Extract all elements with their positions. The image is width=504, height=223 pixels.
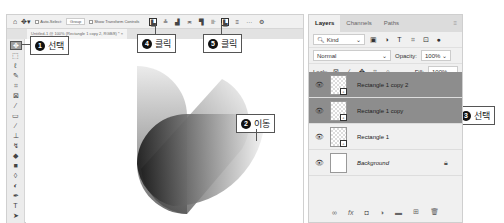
dodge-tool-icon[interactable]: ◐	[10, 182, 22, 190]
blur-tool-icon[interactable]: ◊	[10, 172, 22, 180]
blend-mode-dropdown[interactable]: Normal⌄	[313, 50, 391, 61]
callout-5-connector	[221, 23, 222, 34]
chevron-down-icon: ⌄	[356, 35, 361, 45]
fx-icon[interactable]: fx	[348, 209, 353, 216]
chevron-down-icon: ⌄	[382, 51, 387, 61]
callout-2-connector	[256, 129, 257, 141]
path-select-tool-icon[interactable]: ➤	[10, 212, 22, 220]
panel-menu-icon[interactable]: ≡	[453, 15, 462, 32]
settings-gear-icon[interactable]: ⚙	[257, 18, 265, 26]
home-icon[interactable]: ⌂	[13, 18, 17, 25]
callout-4-connector	[155, 23, 156, 34]
filter-kind-dropdown[interactable]: 🔍︎ Kind⌄	[313, 34, 365, 45]
visibility-eye-icon[interactable]: 👁︎	[313, 133, 325, 141]
new-layer-icon[interactable]: ⊞	[413, 208, 419, 216]
text-tool-icon[interactable]: T	[10, 202, 22, 210]
callout-4: 4클릭	[137, 34, 176, 53]
stamp-tool-icon[interactable]: ⊥	[10, 132, 22, 140]
callout-5: 5클릭	[203, 34, 242, 53]
layer-thumbnail: ▫	[330, 75, 347, 95]
opacity-input[interactable]: 100%⌄	[421, 50, 451, 61]
crop-tool-icon[interactable]: ⌗	[10, 82, 22, 90]
align-left-edges-button[interactable]: ▙	[149, 18, 157, 26]
shape-badge-icon: ▫	[340, 114, 347, 121]
brush-tool-icon[interactable]: ∕	[10, 122, 22, 130]
tab-layers[interactable]: Layers	[309, 15, 340, 32]
layer-row[interactable]: 👁︎ ▫ Rectangle 1 copy 2	[309, 72, 462, 98]
align-bottom-edges-button[interactable]: ▙	[221, 18, 229, 26]
callout-1: 1선택	[30, 36, 69, 55]
move-tool-icon[interactable]: ✥	[10, 41, 22, 50]
layer-row[interactable]: 👁︎ Background 🔒︎	[309, 150, 462, 176]
move-tool-icon[interactable]: ✥▾	[21, 18, 31, 25]
adjustment-layer-icon[interactable]: ◑	[380, 209, 384, 216]
smart-object-filter-icon[interactable]: ⊡	[421, 36, 430, 44]
delete-trash-icon[interactable]: 🗑︎	[430, 208, 439, 216]
adjustment-filter-icon[interactable]: ◑	[382, 36, 391, 43]
tools-panel: ✥ ⬚ ℓ ✎ ⌗ ⊠ ⁄ ▭ ∕ ⊥ ↯ ◆ ■ ◊ ◐ ✒ T ➤	[7, 39, 25, 223]
healing-tool-icon[interactable]: ▭	[10, 112, 22, 120]
lock-icon: 🔒︎	[444, 159, 448, 167]
distribute-vertical-button[interactable]: ≡	[233, 18, 241, 26]
search-icon: 🔍︎	[317, 37, 325, 43]
add-mask-icon[interactable]: ◘	[364, 209, 368, 216]
layer-row[interactable]: 👁︎ ▫ Rectangle 1	[309, 124, 462, 150]
filter-row: 🔍︎ Kind⌄ ▣ ◑ T ⌗ ⊡ ●	[309, 32, 462, 48]
align-right-edges-button[interactable]: ▟	[173, 18, 181, 26]
visibility-eye-icon[interactable]: 👁︎	[313, 159, 325, 167]
blend-row: Normal⌄ Opacity: 100%⌄	[309, 48, 462, 64]
panel-tabs: Layers Channels Paths ≡	[309, 15, 462, 32]
eraser-tool-icon[interactable]: ◆	[10, 152, 22, 160]
new-group-folder-icon[interactable]: ▬	[395, 209, 402, 216]
shape-badge-icon: ▫	[340, 140, 347, 147]
marquee-tool-icon[interactable]: ⬚	[10, 52, 22, 60]
layer-thumbnail: ▫	[330, 127, 347, 147]
distribute-button[interactable]: ≍	[185, 18, 193, 26]
tab-paths[interactable]: Paths	[378, 15, 405, 32]
lasso-tool-icon[interactable]: ℓ	[10, 62, 22, 70]
layer-thumbnail	[330, 153, 347, 173]
frame-tool-icon[interactable]: ⊠	[10, 92, 22, 100]
tab-channels[interactable]: Channels	[340, 15, 377, 32]
show-transform-checkbox[interactable]: Show Transform Controls	[89, 19, 139, 24]
pixel-filter-icon[interactable]: ▣	[369, 36, 378, 44]
filter-toggle-icon[interactable]: ●	[434, 36, 443, 43]
close-tab-icon[interactable]: ×	[121, 31, 123, 36]
type-filter-icon[interactable]: T	[395, 36, 404, 43]
visibility-eye-icon[interactable]: 👁︎	[313, 107, 325, 115]
eyedropper-tool-icon[interactable]: ⁄	[10, 102, 22, 110]
shape-filter-icon[interactable]: ⌗	[408, 36, 417, 44]
auto-select-dropdown[interactable]: Group	[66, 18, 85, 25]
visibility-eye-icon[interactable]: 👁︎	[313, 81, 325, 89]
link-layers-icon[interactable]: ∞	[332, 209, 337, 216]
pen-tool-icon[interactable]: ✒	[10, 192, 22, 200]
callout-1-connector	[22, 44, 30, 45]
layers-panel: Layers Channels Paths ≡ 🔍︎ Kind⌄ ▣ ◑ T ⌗…	[308, 14, 463, 223]
more-options-button[interactable]: ···	[245, 18, 253, 26]
layer-row[interactable]: 👁︎ ▫ Rectangle 1 copy	[309, 98, 462, 124]
quick-select-tool-icon[interactable]: ✎	[10, 72, 22, 80]
auto-select-checkbox[interactable]: Auto-Select:	[35, 19, 62, 24]
layers-list: 👁︎ ▫ Rectangle 1 copy 2 👁︎ ▫ Rectangle 1…	[309, 72, 462, 176]
align-horizontal-centers-button[interactable]: ≛	[161, 18, 169, 26]
align-top-edges-button[interactable]: ▜	[197, 18, 205, 26]
panel-footer: ∞ fx ◘ ◑ ▬ ⊞ 🗑︎	[309, 202, 462, 222]
layer-thumbnail: ▫	[330, 101, 347, 121]
shape-badge-icon: ▫	[340, 88, 347, 95]
align-vertical-centers-button[interactable]: ⊪	[209, 18, 217, 26]
opacity-label: Opacity:	[395, 53, 417, 59]
history-brush-tool-icon[interactable]: ↯	[10, 142, 22, 150]
gradient-tool-icon[interactable]: ■	[10, 162, 22, 170]
